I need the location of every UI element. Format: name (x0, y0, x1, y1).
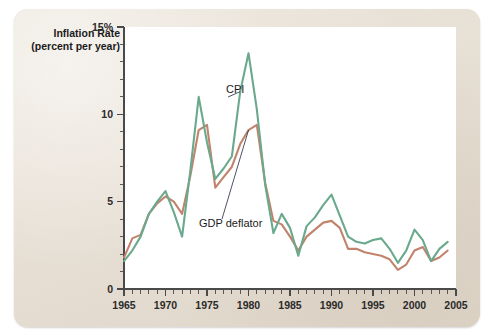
inflation-rate-line-chart: Inflation Rate (percent per year) 051015… (14, 9, 480, 327)
y-axis-tick-labels: 051015% (92, 21, 114, 295)
x-tick-label: 2000 (403, 299, 427, 311)
x-tick-label: 1995 (361, 299, 385, 311)
y-tick-label: 5 (107, 195, 113, 207)
y-axis-ticks (117, 27, 124, 289)
x-axis-ticks (124, 289, 456, 296)
x-axis-tick-labels: 196519701975198019851990199520002005 (112, 299, 468, 311)
x-tick-label: 2005 (444, 299, 468, 311)
cpi-annotation-label: CPI (226, 83, 244, 95)
y-tick-label: 0 (107, 283, 113, 295)
x-tick-label: 1965 (112, 299, 136, 311)
y-axis-title-line2: (percent per year) (31, 40, 120, 52)
x-tick-label: 1990 (320, 299, 344, 311)
y-tick-label: 10 (101, 108, 113, 120)
x-tick-label: 1975 (195, 299, 219, 311)
gdp-deflator-annotation-label: GDP deflator (199, 217, 263, 229)
x-tick-label: 1985 (278, 299, 302, 311)
x-tick-label: 1980 (237, 299, 261, 311)
figure-card: Inflation Rate (percent per year) 051015… (14, 9, 480, 327)
x-tick-label: 1970 (154, 299, 178, 311)
y-tick-label: 15% (92, 21, 114, 33)
